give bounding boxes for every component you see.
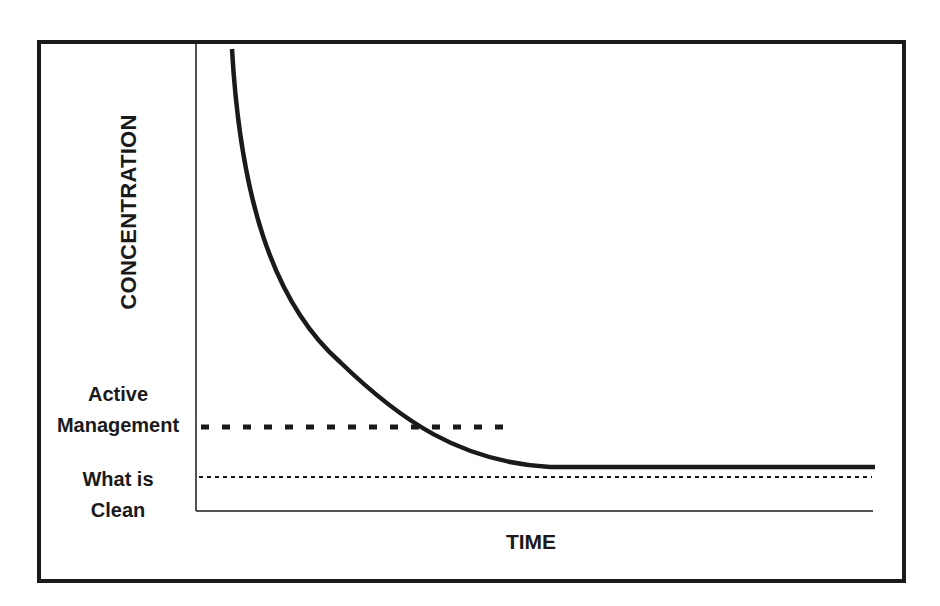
- what-is-clean-label-line1: What is: [38, 464, 198, 495]
- what-is-clean-label: What is Clean: [38, 464, 198, 526]
- active-management-label: Active Management: [38, 379, 198, 441]
- concentration-curve: [232, 49, 875, 467]
- active-management-label-line2: Management: [38, 410, 198, 441]
- active-management-label-line1: Active: [38, 379, 198, 410]
- what-is-clean-label-line2: Clean: [38, 495, 198, 526]
- y-axis-label: CONCENTRATION: [116, 114, 142, 309]
- x-axis-label: TIME: [506, 530, 556, 554]
